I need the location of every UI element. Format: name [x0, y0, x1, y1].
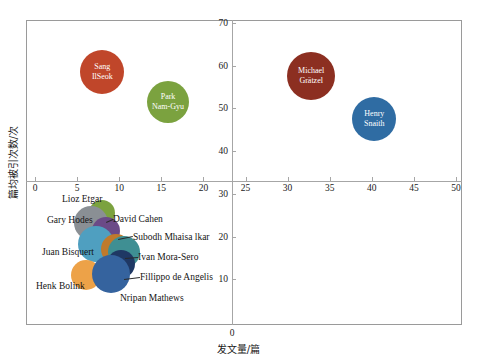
x-tick-label: 10 — [104, 183, 134, 193]
x-tick-label: 40 — [357, 183, 387, 193]
x-tick-label: 5 — [62, 183, 92, 193]
y-tick-mark — [232, 66, 236, 67]
y-tick-label: 60 — [202, 61, 228, 71]
bubble-label-lioz-etgar: Lioz Etgar — [62, 194, 102, 205]
bubble-label-gary-hodes: Gary Hodes — [47, 215, 93, 226]
x-tick-mark — [456, 177, 457, 181]
bubble-nripan-mathews[interactable] — [92, 255, 130, 293]
y-tick-label: 70 — [202, 18, 228, 28]
y-tick-mark — [232, 108, 236, 109]
x-tick-label: 50 — [441, 183, 471, 193]
x-tick-label: 25 — [231, 183, 261, 193]
bubble-label-david-cahen: David Cahen — [113, 214, 163, 225]
bubble-inner-label: Michael Grätzel — [287, 66, 335, 85]
bubble-label-nripan-mathews: Nripan Mathews — [120, 293, 184, 304]
y-tick-mark — [232, 151, 236, 152]
x-tick-mark — [77, 177, 78, 181]
bubble-park-nam-gyu[interactable]: Park Nam-Gyu — [147, 81, 189, 123]
bubble-label-juan-bisquert: Juan Bisquert — [42, 247, 94, 258]
x-tick-mark — [161, 177, 162, 181]
x-axis-line — [26, 181, 462, 182]
x-tick-mark — [414, 177, 415, 181]
bubble-label-henk-bolink: Henk Bolink — [36, 281, 85, 292]
x-tick-mark — [203, 177, 204, 181]
bubble-inner-label: Sang IlSeok — [80, 62, 124, 81]
bubble-inner-label: Henry Snaith — [352, 109, 396, 128]
y-tick-label: 40 — [202, 146, 228, 156]
x-tick-label: 30 — [273, 183, 303, 193]
x-tick-mark — [35, 177, 36, 181]
y-axis-title: 篇均被引次数/次 — [5, 108, 20, 218]
x-tick-mark — [288, 177, 289, 181]
bubble-label-subodh-mhaisalkar: Subodh Mhaisa lkar — [133, 232, 210, 243]
x-tick-mark — [330, 177, 331, 181]
y-tick-mark — [232, 279, 236, 280]
bubble-inner-label: Park Nam-Gyu — [147, 92, 189, 111]
x-tick-label: 35 — [315, 183, 345, 193]
x-tick-mark — [372, 177, 373, 181]
x-tick-mark — [119, 177, 120, 181]
y-tick-mark — [232, 237, 236, 238]
x-tick-label: 15 — [146, 183, 176, 193]
x-axis-title: 发文量/篇 — [0, 341, 477, 356]
y-tick-label: 50 — [202, 103, 228, 113]
origin-tick-label: 0 — [222, 328, 242, 338]
y-tick-label: 30 — [202, 189, 228, 199]
x-tick-label: 0 — [20, 183, 50, 193]
y-tick-mark — [232, 194, 236, 195]
bubble-chart: 0510152025303540455010203040506070 Sang … — [0, 0, 477, 358]
bubble-label-fillippo-de-angelis: Fillippo de Angelis — [140, 272, 213, 283]
x-tick-label: 45 — [399, 183, 429, 193]
x-tick-mark — [246, 177, 247, 181]
bubble-label-ivan-mora-sero: Ivan Mora-Sero — [138, 252, 198, 263]
y-tick-mark — [232, 23, 236, 24]
